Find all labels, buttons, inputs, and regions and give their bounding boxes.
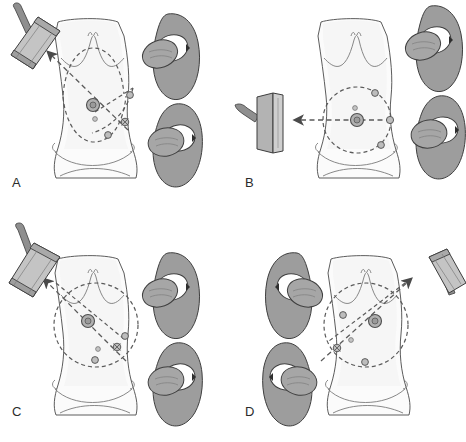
figure-panel-c: C (0, 221, 233, 442)
upper-hip-joint-d (265, 253, 326, 339)
target-crosshair-port-a (121, 118, 129, 126)
figure-panel-d: D (233, 221, 466, 442)
figure-panel-b: B (233, 0, 466, 221)
secondary-marker-d (349, 338, 354, 343)
torso-shading-a (60, 21, 128, 149)
lower-hip-joint-b (409, 96, 466, 179)
left-lateral-port-d (340, 312, 347, 319)
ultrasound-probe-b (235, 93, 283, 153)
target-crosshair-port-d (333, 344, 341, 352)
secondary-marker-a (93, 117, 98, 122)
torso-outline-d (326, 256, 410, 415)
upper-hip-joint-b (401, 6, 462, 92)
panel-c-illustration (0, 221, 233, 442)
upper-hip-joint-a (138, 14, 199, 100)
torso-shading-b (323, 21, 391, 149)
suprapubic-port-a (105, 132, 112, 139)
pelvis-group-a (138, 14, 202, 187)
figure-root: A (0, 0, 466, 442)
panel-d-illustration (233, 221, 466, 442)
left-iliac-crest-a (53, 143, 57, 152)
lower-hip-joint-a (145, 104, 202, 187)
panel-label-a: A (12, 176, 21, 189)
right-lateral-port-a (127, 92, 134, 99)
probe-body-a (11, 17, 60, 69)
left-iliac-crest-c (53, 380, 57, 389)
right-lateral-port-c (122, 333, 129, 340)
target-crosshair-port-c (113, 343, 121, 351)
probe-cable-a (13, 3, 32, 33)
left-iliac-crest-b (316, 143, 320, 152)
upper-hip-joint-c (138, 253, 199, 339)
umbilical-port-inner-a (90, 102, 96, 108)
figure-panel-a: A (0, 0, 233, 221)
lower-port-d (362, 359, 369, 366)
lower-hip-joint-d (263, 343, 320, 426)
left-iliac-crest-d (326, 380, 330, 389)
secondary-marker-c (96, 347, 101, 352)
ultrasound-probe-a (11, 3, 60, 69)
right-lateral-port-b (386, 116, 393, 123)
ultrasound-probe-d (429, 249, 466, 295)
probe-cable-b (235, 104, 259, 122)
umbilical-port-inner-d (372, 318, 378, 324)
probe-body-c (9, 243, 60, 297)
pelvis-group-b (401, 6, 465, 179)
pelvis-group-d (263, 253, 327, 426)
ultrasound-probe-c (9, 223, 60, 297)
secondary-marker-b (353, 106, 358, 111)
probe-side-b (257, 93, 273, 153)
panel-b-illustration (233, 0, 466, 221)
panel-label-d: D (245, 405, 255, 418)
torso-outline-b (316, 19, 400, 178)
panel-label-c: C (12, 405, 22, 418)
umbilical-port-inner-b (354, 117, 360, 123)
lower-port-c (92, 357, 99, 364)
upper-right-port-b (372, 90, 379, 97)
umbilical-port-inner-c (85, 318, 91, 324)
panel-a-illustration (0, 0, 233, 221)
panel-label-b: B (245, 176, 254, 189)
lower-hip-joint-c (145, 343, 202, 426)
lower-right-port-b (378, 142, 385, 149)
pelvis-group-c (138, 253, 202, 426)
